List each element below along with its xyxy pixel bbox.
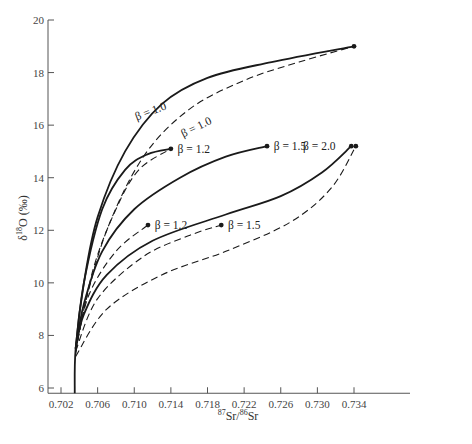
x-tick-label: 0.718 bbox=[195, 398, 220, 410]
endpoint-marker bbox=[349, 144, 354, 149]
x-tick-label: 0.734 bbox=[342, 398, 367, 410]
endpoint-marker bbox=[353, 144, 358, 149]
curve-label: β = 1.2 bbox=[155, 219, 188, 232]
curve-label: β = 1.0 bbox=[133, 99, 168, 123]
curve-label: β = 1.0 bbox=[179, 114, 214, 140]
y-axis-title: δ18O (‰) bbox=[15, 195, 30, 240]
chart: 681012141618200.7020.7060.7100.7140.7180… bbox=[0, 0, 472, 444]
curve-label: β = 2.0 bbox=[303, 140, 336, 153]
curves bbox=[75, 44, 359, 393]
endpoint-marker bbox=[146, 223, 151, 228]
x-tick-label: 0.702 bbox=[49, 398, 74, 410]
endpoint-marker bbox=[265, 144, 270, 149]
y-tick-label: 10 bbox=[33, 277, 45, 289]
curve-label: β = 1.5 bbox=[228, 219, 261, 232]
y-tick-label: 16 bbox=[33, 119, 45, 131]
x-tick-label: 0.706 bbox=[85, 398, 110, 410]
x-tick-label: 0.714 bbox=[159, 398, 184, 410]
y-tick-label: 18 bbox=[33, 67, 45, 79]
x-tick-label: 0.730 bbox=[305, 398, 330, 410]
y-tick-label: 20 bbox=[33, 14, 45, 26]
y-tick-label: 12 bbox=[33, 224, 44, 236]
curve-label: β = 1.2 bbox=[178, 143, 211, 156]
y-tick-label: 8 bbox=[39, 329, 45, 341]
curve-solid bbox=[76, 146, 352, 348]
y-tick-label: 14 bbox=[33, 172, 45, 184]
curve-dashed bbox=[76, 46, 354, 354]
x-axis-title: 87Sr/86Sr bbox=[218, 408, 259, 423]
x-tick-label: 0.710 bbox=[122, 398, 147, 410]
x-tick-label: 0.726 bbox=[268, 398, 293, 410]
curve-label: β = 1.5 bbox=[274, 140, 307, 153]
y-tick-label: 6 bbox=[39, 382, 45, 394]
curve-solid bbox=[76, 146, 267, 348]
curve-solid bbox=[75, 46, 354, 393]
endpoint-marker bbox=[219, 223, 224, 228]
